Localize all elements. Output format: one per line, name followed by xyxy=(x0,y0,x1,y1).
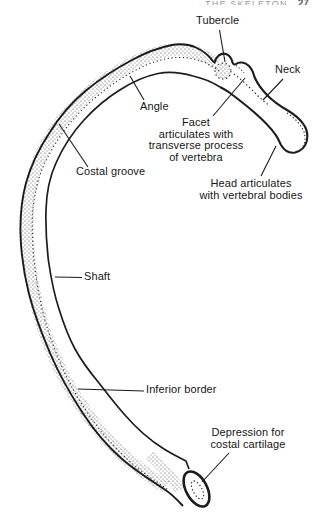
costal-groove-leader-line xyxy=(59,124,88,167)
label-facet-articulates: Facet articulates with transverse proces… xyxy=(146,117,246,163)
neck-leader-line xyxy=(263,79,283,100)
tubercle-dotted-patch xyxy=(215,63,231,79)
shaft-leader-line xyxy=(55,277,82,278)
depression-leader-line xyxy=(202,453,229,482)
label-costal-groove: Costal groove xyxy=(76,166,145,178)
inferior-border-leader-line xyxy=(78,389,144,391)
label-head-articulates: Head articulates with vertebral bodies xyxy=(197,178,305,201)
label-neck: Neck xyxy=(275,64,300,76)
label-shaft: Shaft xyxy=(84,271,110,283)
head-dotted-arc xyxy=(287,113,305,148)
figure-page: THE SKELETON27 xyxy=(0,0,314,520)
facet-leader-line xyxy=(213,78,245,116)
tubercle-leader-line xyxy=(220,30,226,62)
label-depression: Depression for costal cartilage xyxy=(206,427,290,450)
label-angle: Angle xyxy=(140,101,169,113)
shaft-outer-edge xyxy=(20,44,210,506)
head-leader-line xyxy=(261,146,276,176)
label-tubercle: Tubercle xyxy=(196,15,239,27)
label-inferior-border: Inferior border xyxy=(146,384,217,396)
